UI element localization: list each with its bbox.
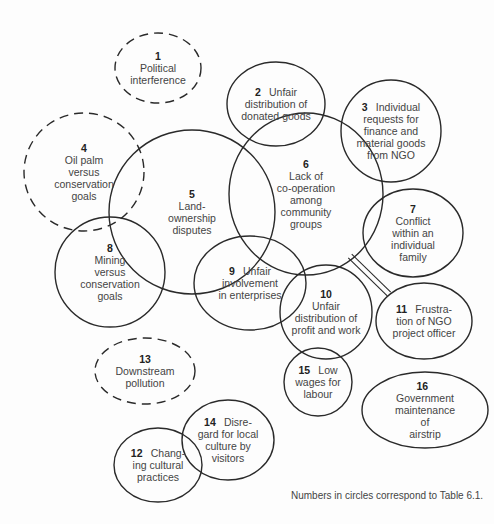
node-circle-8 xyxy=(55,217,165,327)
node-circle-4 xyxy=(24,113,144,231)
node-circle-16 xyxy=(362,372,488,448)
node-circle-7 xyxy=(363,189,463,277)
node-circle-13 xyxy=(95,338,195,404)
figure-caption: Numbers in circles correspond to Table 6… xyxy=(291,490,483,501)
node-circle-11 xyxy=(376,283,472,359)
node-circle-12 xyxy=(114,428,202,502)
node-circle-5 xyxy=(109,130,275,294)
conflict-diagram: 1Political interference2 Unfairdistribut… xyxy=(0,0,494,524)
node-circle-3 xyxy=(341,80,441,182)
node-circle-14 xyxy=(182,400,274,480)
diagram-shapes xyxy=(0,0,494,524)
node-circle-1 xyxy=(115,33,201,103)
node-circle-2 xyxy=(227,62,325,146)
